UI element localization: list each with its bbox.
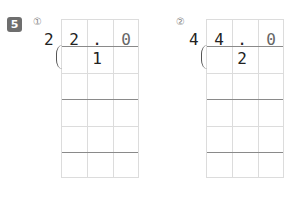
problem-number-badge: 5	[7, 17, 22, 32]
grid-row-line	[207, 126, 283, 127]
item-1-divisor: 2	[44, 30, 54, 49]
subtraction-line	[62, 99, 138, 100]
item-2-dividend-digit: 0	[258, 30, 284, 49]
grid-row-line	[62, 73, 138, 74]
item-1-dividend-digit: . 1	[84, 30, 110, 68]
grid-row-line	[62, 126, 138, 127]
item-2-label: ②	[176, 16, 185, 27]
subtraction-line	[62, 152, 138, 153]
subtraction-line	[207, 152, 283, 153]
item-2-dividend-digit: . 2	[229, 30, 255, 68]
grid-row-line	[207, 73, 283, 74]
item-1-dividend-digit: 0	[113, 30, 139, 49]
item-1-label: ①	[33, 16, 42, 27]
subtraction-line	[207, 99, 283, 100]
item-2-divisor: 4	[189, 30, 199, 49]
